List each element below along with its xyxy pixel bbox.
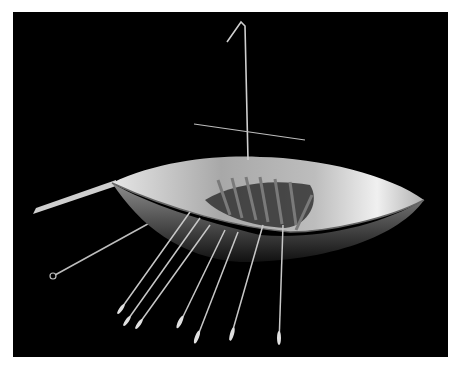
yard <box>194 124 305 140</box>
wire-with-loop <box>50 220 155 279</box>
boat-photograph <box>13 12 448 357</box>
steering-oar <box>33 180 116 214</box>
oar-blades <box>116 303 281 345</box>
mast <box>227 22 248 160</box>
